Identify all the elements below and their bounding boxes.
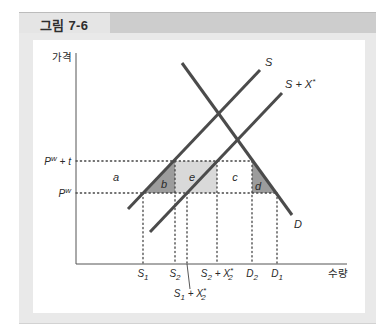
y-axis-title: 가격 — [52, 51, 72, 63]
x-tick-label-d1: D1 — [271, 268, 283, 282]
curve-label-s: S — [265, 56, 273, 68]
x-tick-label-s1: S1 — [137, 268, 148, 282]
region-label-c: c — [232, 171, 238, 183]
region-label-e: e — [189, 171, 195, 183]
region-e — [175, 161, 217, 193]
region-label-b: b — [161, 178, 167, 190]
curve-label-s-x-: S + X* — [285, 77, 316, 90]
x-axis-title: 수량 — [328, 267, 348, 279]
x-tick-label-d2: D2 — [246, 268, 258, 282]
curve-label-d: D — [294, 218, 302, 230]
y-tick-label-p-w-t: Pw + t — [44, 154, 72, 167]
x-tick-label-s1-x2-: S1 + X*2 — [174, 286, 207, 302]
x-tick-label-s2: S2 — [169, 268, 181, 282]
region-label-d: d — [255, 180, 262, 192]
region-label-a: a — [113, 171, 119, 183]
supply-demand-chart: SS + X*DabecdPw + tPwS1S2S1 + X*2S2 + X*… — [0, 0, 376, 334]
leader-line-s1-x2- — [187, 264, 190, 289]
y-tick-label-p-w: Pw — [59, 186, 73, 199]
x-tick-label-s2-x2-: S2 + X*2 — [201, 266, 234, 282]
curve-s-x- — [150, 93, 282, 232]
